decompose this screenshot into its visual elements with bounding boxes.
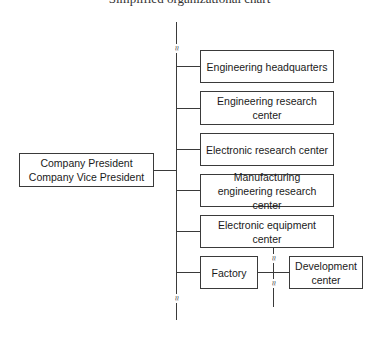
sub-development-center: Development center (289, 256, 363, 289)
dept-engineering-headquarters: Engineering headquarters (200, 50, 334, 83)
branch-5 (176, 231, 200, 232)
root-box: Company President Company Vice President (19, 153, 154, 187)
break-mark-secondary-1: ≈ (269, 254, 278, 263)
break-mark-top: ≈ (172, 44, 181, 53)
dept-engineering-research-center: Engineering research center (200, 91, 334, 125)
dept-electronic-research-center: Electronic research center (200, 133, 334, 166)
branch-6 (176, 272, 200, 273)
root-connector (153, 170, 177, 171)
factory-dev-connector (257, 272, 289, 273)
branch-1 (176, 66, 200, 67)
cropped-caption: Simplified organizational chart (0, 0, 379, 7)
branch-4 (176, 190, 200, 191)
branch-2 (176, 108, 200, 109)
root-label-2: Company Vice President (29, 170, 144, 184)
dept-electronic-equipment-center: Electronic equipment center (200, 215, 334, 248)
break-mark-bottom: ≈ (172, 294, 181, 303)
dept-factory: Factory (200, 256, 258, 289)
dept-manufacturing-engineering-research-center: Manufacturing engineering research cente… (200, 174, 334, 207)
branch-3 (176, 149, 200, 150)
root-label-1: Company President (40, 156, 132, 170)
break-mark-secondary-2: ≈ (269, 279, 278, 288)
